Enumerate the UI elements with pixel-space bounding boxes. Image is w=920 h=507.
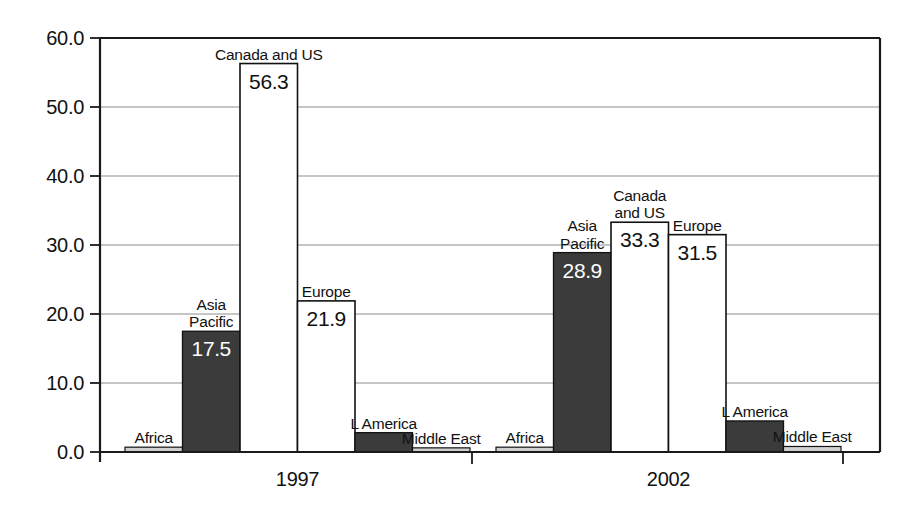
series-label-2002-asia-pacific: Asia [568, 217, 598, 234]
series-label-2002-l-america: L America [721, 403, 788, 420]
y-tick-label-20.0: 20.0 [46, 303, 84, 325]
y-tick-label-30.0: 30.0 [46, 234, 84, 256]
series-label-1997-asia-pacific: Pacific [189, 313, 234, 330]
series-label-1997-asia-pacific: Asia [197, 296, 227, 313]
bar-2002-europe[interactable] [669, 235, 727, 452]
value-label-1997-europe: 21.9 [307, 307, 346, 330]
y-tick-label-50.0: 50.0 [46, 96, 84, 118]
value-label-2002-europe: 31.5 [678, 241, 717, 264]
x-axis-tick-labels: 19972002 [276, 468, 690, 490]
series-label-2002-africa: Africa [506, 429, 545, 446]
x-tick-label-1997: 1997 [276, 468, 319, 490]
series-label-2002-canada-and-us: Canada [613, 187, 667, 204]
series-label-2002-middle-east: Middle East [773, 428, 853, 445]
value-label-2002-canada-and-us: 33.3 [620, 228, 659, 251]
series-label-1997-africa: Africa [135, 429, 174, 446]
value-label-2002-asia-pacific: 28.9 [563, 259, 602, 282]
series-label-2002-asia-pacific: Pacific [560, 235, 605, 252]
series-label-1997-europe: Europe [302, 283, 351, 300]
bar-1997-canada-and-us[interactable] [240, 64, 298, 452]
bar-2002-asia-pacific[interactable] [554, 253, 612, 452]
y-axis-tick-labels: 0.010.020.030.040.050.060.0 [46, 27, 84, 463]
series-label-1997-canada-and-us: Canada and US [215, 46, 323, 63]
value-label-1997-asia-pacific: 17.5 [192, 337, 231, 360]
series-label-2002-canada-and-us: and US [615, 204, 666, 221]
value-label-1997-canada-and-us: 56.3 [249, 70, 288, 93]
bar-2002-canada-and-us[interactable] [611, 222, 669, 452]
series-label-2002-europe: Europe [673, 217, 722, 234]
y-tick-label-60.0: 60.0 [46, 27, 84, 49]
x-tick-label-2002: 2002 [647, 468, 690, 490]
bar-chart: 0.010.020.030.040.050.060.0 19972002 Afr… [0, 0, 920, 507]
series-label-1997-middle-east: Middle East [402, 430, 482, 447]
y-tick-label-40.0: 40.0 [46, 165, 84, 187]
y-tick-label-0.0: 0.0 [57, 441, 84, 463]
chart-canvas: 0.010.020.030.040.050.060.0 19972002 Afr… [0, 0, 920, 507]
y-tick-label-10.0: 10.0 [46, 372, 84, 394]
bars-group [125, 64, 841, 452]
